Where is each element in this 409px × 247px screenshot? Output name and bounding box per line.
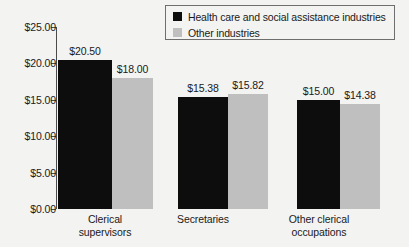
bar (340, 104, 380, 209)
bar (178, 97, 228, 209)
chart-legend: Health care and social assistance indust… (165, 5, 395, 40)
x-axis-category-label-line: Secretaries (153, 213, 253, 226)
y-axis-tick-label: $15.00 (10, 94, 56, 106)
bar-value-label: $15.82 (226, 79, 270, 91)
y-axis-tick: $10.00 (0, 136, 56, 137)
y-axis-tick-label: $10.00 (10, 130, 56, 142)
legend-swatch-icon-light (173, 28, 182, 37)
bar-chart: $0.00$5.00$10.00$15.00$20.00$25.00 $20.5… (0, 0, 409, 247)
y-axis-tick: $15.00 (0, 100, 56, 101)
legend-item-health-care: Health care and social assistance indust… (173, 10, 394, 23)
y-axis-tick-label: $25.00 (10, 21, 56, 33)
legend-item-other-industries: Other industries (173, 26, 394, 39)
bar-value-label: $15.00 (297, 85, 341, 97)
bar-value-label: $20.50 (63, 45, 107, 57)
bar-value-label: $15.38 (181, 82, 225, 94)
x-axis-category-label-line: supervisors (55, 226, 155, 239)
y-axis-tick: $20.00 (0, 63, 56, 64)
bar (58, 60, 112, 209)
legend-item-label: Other industries (188, 27, 260, 39)
x-axis-category-label: Clericalsupervisors (55, 213, 155, 239)
x-axis-category-label-line: Clerical (55, 213, 155, 226)
legend-item-label: Health care and social assistance indust… (188, 11, 386, 23)
x-axis-category-label-line: occupations (269, 226, 369, 239)
x-axis-category-label-line: Other clerical (269, 213, 369, 226)
y-axis-tick: $0.00 (0, 209, 56, 210)
y-axis-tick: $25.00 (0, 27, 56, 28)
bar-value-label: $18.00 (111, 63, 155, 75)
y-axis-tick: $5.00 (0, 173, 56, 174)
bar-value-label: $14.38 (338, 89, 382, 101)
y-axis-tick-label: $20.00 (10, 57, 56, 69)
x-axis-category-label: Secretaries (153, 213, 253, 226)
y-axis-tick-label: $5.00 (10, 167, 56, 179)
bar (112, 78, 153, 209)
plot-area: $20.50$18.00$15.38$15.82$15.00$14.38 (57, 27, 402, 209)
y-axis-tick-label: $0.00 (10, 203, 56, 215)
x-axis-category-label: Other clericaloccupations (269, 213, 369, 239)
legend-swatch-icon-dark (173, 12, 182, 21)
bar (297, 100, 340, 209)
bar (228, 94, 268, 209)
